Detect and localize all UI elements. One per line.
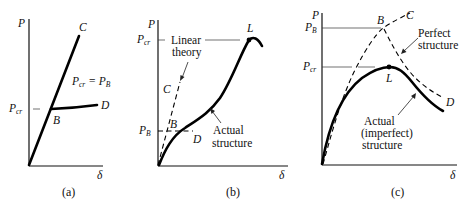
panel-b-linear-label-1: Linear xyxy=(171,34,201,46)
panel-a: P δ Pcr C B D Pcr = PB (a) xyxy=(8,17,111,199)
panel-b: P δ Pcr PB L C B D Linear theory Actual … xyxy=(136,18,288,199)
panel-b-y-label: P xyxy=(147,18,155,30)
panel-a-caption: (a) xyxy=(62,185,75,199)
panel-c-point-b: B xyxy=(377,14,384,26)
panel-a-branch-bd xyxy=(51,105,97,109)
panel-b-pb-label: PB xyxy=(138,124,151,138)
panel-c-perfect-label-1: Perfect xyxy=(418,27,451,39)
panel-b-linear-arrow xyxy=(182,62,188,78)
panel-c-pb-label: PB xyxy=(304,21,317,35)
panel-c-pcr-label: Pcr xyxy=(302,60,316,74)
buckling-diagram: P δ Pcr C B D Pcr = PB (a) P δ Pcr PB L xyxy=(0,0,468,206)
panel-b-linear-label-2: theory xyxy=(172,46,202,59)
panel-c-perfect-arrow xyxy=(404,38,418,51)
panel-b-point-l: L xyxy=(246,22,253,34)
panel-b-x-label: δ xyxy=(279,169,285,181)
panel-c-x-label: δ xyxy=(450,169,456,181)
panel-c-caption: (c) xyxy=(391,185,404,199)
panel-a-point-d: D xyxy=(100,99,110,111)
panel-b-point-d: D xyxy=(192,133,202,145)
panel-c-point-c: C xyxy=(406,9,414,21)
panel-b-linear-arrowhead-icon xyxy=(180,75,185,81)
panel-a-equation: Pcr = PB xyxy=(71,75,111,89)
panel-a-point-c: C xyxy=(79,21,87,33)
panel-b-actual-label-1: Actual xyxy=(213,124,244,136)
panel-c-point-l: L xyxy=(385,72,392,84)
panel-c-actual-arrow xyxy=(398,96,414,115)
panel-c-actual-label-3: structure xyxy=(362,139,402,151)
panel-b-point-c: C xyxy=(163,83,171,95)
panel-c: P δ PB Pcr B C L D Perfect structure Act… xyxy=(302,9,458,199)
panel-b-actual-arrow xyxy=(212,111,221,123)
panel-c-point-d: D xyxy=(445,96,455,108)
panel-c-point-l-marker xyxy=(387,65,392,70)
panel-b-caption: (b) xyxy=(226,185,240,199)
panel-b-actual-label-2: structure xyxy=(212,137,252,149)
panel-a-x-label: δ xyxy=(97,169,103,181)
panel-b-pcr-label: Pcr xyxy=(136,33,150,47)
panel-a-point-b: B xyxy=(53,114,60,126)
panel-c-perfect-label-2: structure xyxy=(418,39,458,51)
panel-c-y-label: P xyxy=(311,9,319,21)
panel-b-point-b: B xyxy=(170,118,177,130)
panel-a-y-label: P xyxy=(17,17,25,29)
panel-c-actual-label-1: Actual xyxy=(364,115,395,127)
panel-a-line-oc xyxy=(29,36,79,165)
panel-a-pcr-label: Pcr xyxy=(8,102,22,116)
panel-b-point-l-marker xyxy=(247,38,252,43)
